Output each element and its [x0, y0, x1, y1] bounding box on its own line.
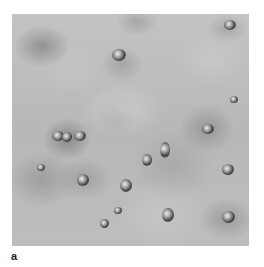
- panel-label: a: [11, 250, 17, 262]
- lesion: [160, 142, 170, 158]
- lesion: [222, 211, 235, 223]
- lesion: [112, 49, 126, 61]
- lesion: [114, 207, 122, 214]
- lesion: [230, 96, 238, 103]
- lesion: [74, 131, 86, 141]
- skin-lesion-photo: [12, 14, 249, 246]
- lesion: [142, 154, 152, 166]
- lesion: [222, 164, 234, 175]
- lesion: [37, 164, 45, 171]
- lesion: [77, 174, 89, 186]
- lesion: [202, 124, 214, 134]
- lesion: [120, 179, 132, 192]
- lesion: [224, 20, 236, 30]
- lesion: [100, 219, 109, 228]
- lesion: [62, 132, 72, 142]
- lesion: [162, 208, 174, 222]
